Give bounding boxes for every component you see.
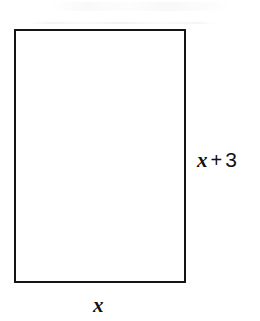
rectangle-shape	[14, 29, 186, 283]
height-label-operator: +	[208, 149, 224, 171]
scan-noise-artifact	[28, 22, 218, 24]
scan-noise-artifact-top	[50, 2, 235, 11]
height-label: x+3	[197, 149, 237, 171]
geometry-figure: x+3 x	[0, 0, 260, 321]
width-label-variable: x	[93, 293, 104, 317]
height-label-constant: 3	[223, 148, 237, 171]
height-label-variable: x	[197, 148, 208, 172]
width-label: x	[93, 295, 104, 316]
